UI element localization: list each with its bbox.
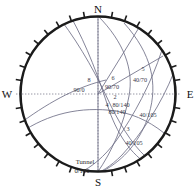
perimeter-tick xyxy=(16,80,22,81)
perimeter-tick xyxy=(125,167,127,173)
plane-label-6: 6 xyxy=(111,74,114,81)
plane-label-5: 5 xyxy=(141,65,144,72)
plane-value-1: 40/105 xyxy=(139,111,156,118)
plane-value-3: 40/105 xyxy=(125,139,142,146)
perimeter-tick xyxy=(69,16,71,22)
cardinal-south: S xyxy=(95,176,101,188)
perimeter-tick xyxy=(157,144,162,148)
plane-label-8: 8 xyxy=(87,76,90,83)
perimeter-tick xyxy=(69,167,71,173)
perimeter-tick xyxy=(165,52,170,55)
perimeter-tick xyxy=(125,16,127,22)
plane-value-4: 80/140 xyxy=(108,108,125,115)
perimeter-tick xyxy=(148,153,152,158)
perimeter-tick xyxy=(111,170,112,176)
stereonet-canvas: N S E W 8 90/0 6 90/70 5 40/70 2 80/140 … xyxy=(0,0,196,188)
tunnel-value: 0/180 xyxy=(74,167,90,174)
perimeter-tick xyxy=(26,52,31,55)
perimeter-tick xyxy=(148,30,152,35)
perimeter-tick xyxy=(137,161,140,166)
perimeter-tick xyxy=(20,65,26,67)
perimeter-tick xyxy=(56,161,59,166)
plane-label-4: 4 xyxy=(105,101,108,108)
perimeter-tick xyxy=(165,133,170,136)
perimeter-tick xyxy=(174,107,180,108)
plane-label-2: 2 xyxy=(113,93,116,100)
perimeter-tick xyxy=(26,133,31,136)
perimeter-tick xyxy=(171,121,177,123)
perimeter-tick xyxy=(44,153,48,158)
plane-value-8: 90/0 xyxy=(73,86,84,93)
perimeter-tick xyxy=(174,80,180,81)
cardinal-east: E xyxy=(187,88,194,100)
perimeter-tick xyxy=(16,107,22,108)
cardinal-west: W xyxy=(2,88,13,100)
plane-value-6: 90/70 xyxy=(105,83,119,90)
arc-40-105b xyxy=(91,72,174,175)
perimeter-tick xyxy=(34,144,39,148)
perimeter-tick xyxy=(84,12,85,18)
perimeter-tick xyxy=(137,22,140,27)
plane-value-2: 80/140 xyxy=(112,101,129,108)
perimeter-tick xyxy=(111,12,112,18)
arc-lower xyxy=(22,80,106,122)
stereonet-diagram: N S E W 8 90/0 6 90/70 5 40/70 2 80/140 … xyxy=(0,0,196,188)
perimeter-tick xyxy=(20,121,26,123)
cardinal-north: N xyxy=(94,3,102,15)
tunnel-label: Tunnel xyxy=(76,158,95,165)
plane-label-3: 3 xyxy=(126,125,129,132)
perimeter-tick xyxy=(157,40,162,44)
perimeter-tick xyxy=(34,40,39,44)
perimeter-tick xyxy=(56,22,59,27)
perimeter-tick xyxy=(44,30,48,35)
perimeter-tick xyxy=(171,65,177,67)
plane-value-5: 40/70 xyxy=(133,76,147,83)
